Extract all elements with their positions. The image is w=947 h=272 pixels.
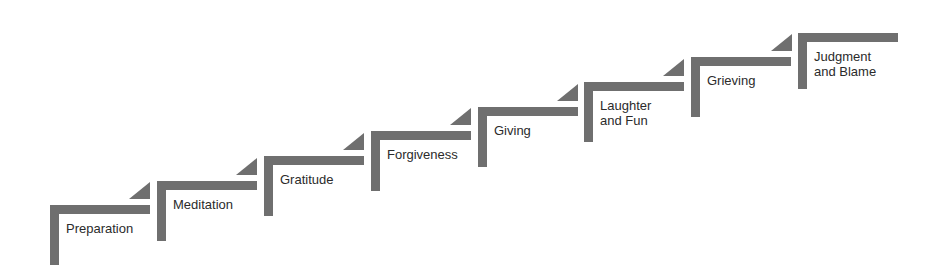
- step-tread: [371, 131, 471, 140]
- step-label: Gratitude: [280, 172, 333, 187]
- step-riser: [798, 33, 807, 89]
- step-laughter-and-fun: Laughter and Fun: [584, 82, 694, 144]
- step-tread: [798, 33, 898, 42]
- step-tread: [691, 57, 791, 66]
- step-label: Judgment and Blame: [814, 49, 876, 79]
- arrow-triangle-icon: [771, 34, 792, 51]
- step-riser: [584, 82, 593, 142]
- step-tread: [478, 107, 578, 116]
- arrow-triangle-icon: [236, 158, 257, 175]
- step-label: Grieving: [707, 73, 755, 88]
- step-riser: [157, 181, 166, 241]
- step-label: Meditation: [173, 197, 233, 212]
- arrow-triangle-icon: [343, 133, 364, 150]
- step-label: Preparation: [66, 221, 133, 236]
- step-forgiveness: Forgiveness: [371, 131, 481, 193]
- step-riser: [691, 57, 700, 117]
- step-riser: [50, 205, 59, 265]
- step-label: Giving: [494, 123, 531, 138]
- step-preparation: Preparation: [50, 205, 160, 267]
- step-tread: [264, 156, 364, 165]
- step-meditation: Meditation: [157, 181, 267, 243]
- step-giving: Giving: [478, 107, 588, 169]
- step-label: Laughter and Fun: [600, 98, 651, 128]
- step-label: Forgiveness: [387, 147, 458, 162]
- step-tread: [584, 82, 684, 91]
- arrow-triangle-icon: [557, 84, 578, 101]
- staircase-diagram: Preparation Meditation Gratitude Forgive…: [0, 0, 947, 272]
- arrow-triangle-icon: [129, 182, 150, 199]
- step-riser: [371, 131, 380, 191]
- step-grieving: Grieving: [691, 57, 801, 119]
- step-tread: [50, 205, 150, 214]
- arrow-triangle-icon: [450, 108, 471, 125]
- arrow-triangle-icon: [663, 59, 684, 76]
- step-riser: [478, 107, 487, 167]
- step-judgment-and-blame: Judgment and Blame: [798, 33, 908, 95]
- step-gratitude: Gratitude: [264, 156, 374, 218]
- step-tread: [157, 181, 257, 190]
- step-riser: [264, 156, 273, 216]
